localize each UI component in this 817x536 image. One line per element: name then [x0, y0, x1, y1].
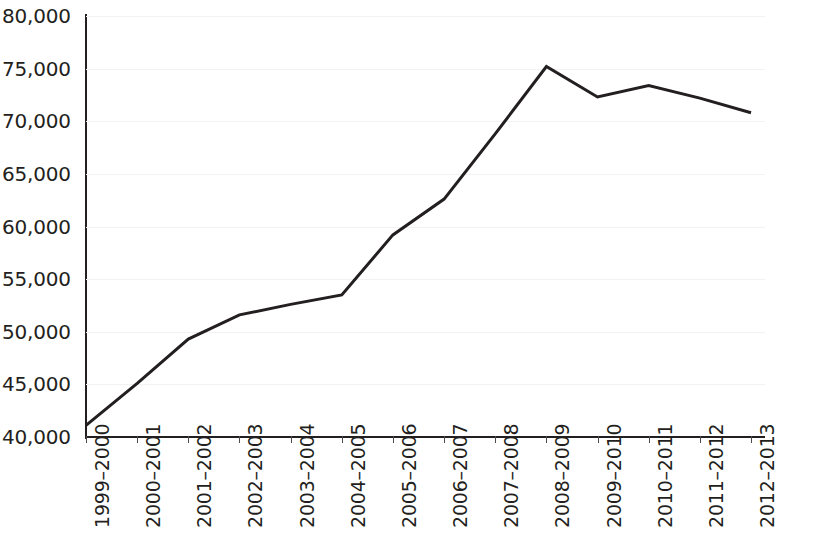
- x-axis-tick-label: 2006–2007: [451, 424, 470, 528]
- x-axis-tick-mark: [137, 436, 138, 443]
- x-axis-tick-mark: [342, 436, 343, 443]
- x-axis-tick-label: 2001–2002: [195, 424, 214, 528]
- x-axis-tick-label: 2000–2001: [144, 424, 163, 528]
- x-axis-tick-mark: [291, 436, 292, 443]
- x-axis-tick-mark: [86, 436, 87, 443]
- x-axis-tick-label: 2004–2005: [349, 424, 368, 528]
- x-axis-tick-labels: 1999–20002000–20012001–20022002–20032003…: [0, 0, 817, 536]
- x-axis-tick-label: 2002–2003: [246, 424, 265, 528]
- x-axis-tick-mark: [700, 436, 701, 443]
- x-axis-tick-mark: [546, 436, 547, 443]
- line-chart: 40,00045,00050,00055,00060,00065,00070,0…: [0, 0, 817, 536]
- x-axis-tick-label: 2007–2008: [502, 424, 521, 528]
- x-axis-tick-mark: [598, 436, 599, 443]
- x-axis-tick-label: 2009–2010: [605, 424, 624, 528]
- x-axis-tick-mark: [751, 436, 752, 443]
- x-axis-tick-label: 2010–2011: [656, 424, 675, 528]
- x-axis-tick-mark: [239, 436, 240, 443]
- x-axis-tick-mark: [495, 436, 496, 443]
- x-axis-tick-mark: [393, 436, 394, 443]
- x-axis-tick-label: 2008–2009: [553, 424, 572, 528]
- x-axis-tick-label: 1999–2000: [93, 424, 112, 528]
- x-axis-tick-label: 2012–2013: [758, 424, 777, 528]
- x-axis-tick-label: 2005–2006: [400, 424, 419, 528]
- x-axis-tick-mark: [188, 436, 189, 443]
- x-axis-tick-mark: [649, 436, 650, 443]
- x-axis-tick-label: 2003–2004: [298, 424, 317, 528]
- x-axis-tick-mark: [444, 436, 445, 443]
- x-axis-tick-label: 2011–2012: [707, 424, 726, 528]
